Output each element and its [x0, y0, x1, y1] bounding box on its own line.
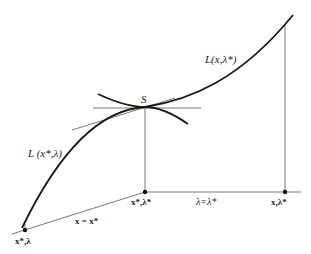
- label-curve-lambda: L (x*,λ): [27, 147, 62, 160]
- label-curve-x: L(x,λ*): [204, 53, 237, 66]
- label-saddle: S: [141, 93, 147, 105]
- point-left: [23, 228, 27, 232]
- label-edge-x: x = x*: [75, 216, 99, 226]
- label-point-right: x,λ*: [271, 197, 287, 207]
- point-right: [283, 190, 287, 194]
- label-point-left: x*,λ: [15, 236, 31, 246]
- label-edge-lambda: λ=λ*: [195, 196, 216, 207]
- point-origin: [143, 190, 147, 194]
- curve-L-x-star-lambda: [22, 107, 145, 228]
- saddle-point-diagram: S L(x,λ*) L (x*,λ) x*,λ* x,λ* x*,λ x = x…: [0, 0, 311, 254]
- label-point-origin: x*,λ*: [131, 197, 152, 207]
- axis-x-line: [12, 192, 145, 234]
